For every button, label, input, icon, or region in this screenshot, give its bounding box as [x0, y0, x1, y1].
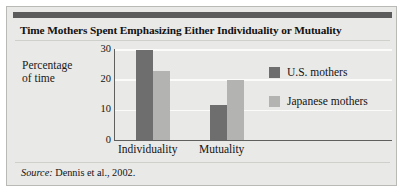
- y-tick-30: 30: [89, 43, 111, 54]
- legend-label-japanese-mothers: Japanese mothers: [287, 95, 368, 107]
- plot-container: Percentage of time 30 20 10 0 Individual…: [7, 7, 398, 187]
- legend-swatch-us-mothers: [269, 67, 280, 78]
- source-note: Source: Dennis et al., 2002.: [21, 167, 135, 178]
- source-citation: Dennis et al., 2002.: [53, 167, 136, 178]
- bar-mutuality-japanese: [227, 80, 244, 140]
- y-axis-tick-labels: 30 20 10 0: [87, 49, 111, 140]
- gridline-30: [115, 49, 392, 51]
- legend-swatch-japanese-mothers: [269, 96, 280, 107]
- source-label: Source:: [21, 167, 53, 178]
- legend-item-us-mothers: U.S. mothers: [269, 65, 394, 79]
- y-tick-20: 20: [89, 73, 111, 84]
- figure-panel: Time Mothers Spent Emphasizing Either In…: [6, 6, 397, 186]
- y-tick-0: 0: [89, 134, 111, 145]
- source-divider: [15, 162, 390, 163]
- legend-item-japanese-mothers: Japanese mothers: [269, 94, 394, 108]
- legend: U.S. mothers Japanese mothers: [269, 65, 394, 123]
- bar-individuality-us: [136, 50, 153, 140]
- x-tick-individuality: Individuality: [118, 143, 177, 155]
- bar-mutuality-us: [210, 105, 227, 140]
- x-axis-line: [114, 140, 392, 141]
- x-tick-mutuality: Mutuality: [199, 143, 244, 155]
- legend-label-us-mothers: U.S. mothers: [287, 66, 347, 78]
- y-tick-10: 10: [89, 103, 111, 114]
- bar-individuality-japanese: [153, 71, 170, 140]
